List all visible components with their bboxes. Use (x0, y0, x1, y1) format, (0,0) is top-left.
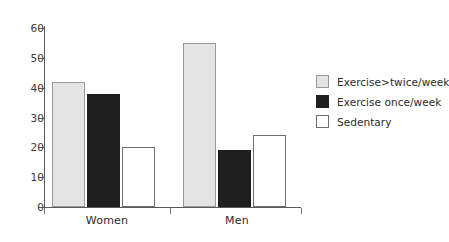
y-axis-tick-label: 60 (10, 23, 44, 33)
x-axis-line (44, 207, 301, 208)
y-axis-tick-label: 10 (10, 172, 44, 182)
y-axis-tick-label: 30 (10, 113, 44, 123)
legend-swatch-icon (316, 75, 329, 88)
x-axis-category-label-men: Men (192, 214, 282, 227)
legend-item-exercise-once-week[interactable]: Exercise once/week (316, 92, 442, 111)
legend-item-label: Sedentary (337, 116, 391, 128)
y-axis-tick-label: 40 (10, 83, 44, 93)
y-axis-tick-label: 0 (10, 202, 44, 212)
y-axis-tick-label: 50 (10, 53, 44, 63)
y-axis-line (44, 26, 45, 208)
legend-item-label: Exercise once/week (337, 96, 441, 108)
bar-men-series-2 (218, 150, 251, 207)
legend: Exercise>twice/week Exercise once/week S… (316, 72, 442, 132)
bar-women-series-3 (122, 147, 155, 207)
legend-item-label: Exercise>twice/week (337, 76, 449, 88)
plot-area: 6050403020100 WomenMen (0, 0, 310, 242)
legend-item-exercise-twice-week[interactable]: Exercise>twice/week (316, 72, 442, 91)
y-axis-tick-label: 20 (10, 142, 44, 152)
legend-swatch-icon (316, 95, 329, 108)
bar-women-series-2 (87, 94, 120, 207)
x-axis-category-label-women: Women (62, 214, 152, 227)
x-axis-tick-mark (170, 208, 171, 214)
bar-men-series-1 (183, 43, 216, 207)
bar-men-series-3 (253, 135, 286, 207)
legend-swatch-icon (316, 115, 329, 128)
bar-women-series-1 (52, 82, 85, 207)
x-axis-tick-mark (301, 208, 302, 214)
legend-item-sedentary[interactable]: Sedentary (316, 112, 442, 131)
x-axis-tick-mark (44, 208, 45, 214)
